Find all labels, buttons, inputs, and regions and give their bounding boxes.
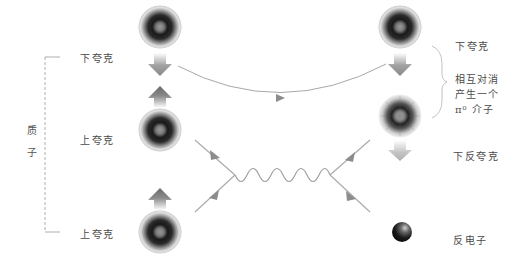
diagram-canvas bbox=[0, 0, 523, 265]
left-label-up-quark-1: 上夸克 bbox=[80, 132, 115, 147]
feynman-incoming-bottom bbox=[195, 175, 235, 212]
spin-down-arrow-icon bbox=[388, 140, 412, 161]
right-label-down-quark: 下夸克 bbox=[455, 38, 490, 53]
proton-label-char: 质 bbox=[26, 120, 38, 142]
proton-bracket bbox=[45, 57, 60, 232]
spin-up-arrow-icon bbox=[148, 86, 172, 108]
left-label-up-quark-2: 上夸克 bbox=[80, 226, 115, 241]
positron bbox=[392, 222, 412, 242]
proton-label-char: 子 bbox=[26, 142, 38, 164]
feynman-incoming-top bbox=[195, 140, 235, 175]
note-line: π⁰ 介子 bbox=[455, 102, 499, 117]
spin-down-arrow-icon bbox=[388, 53, 412, 76]
annihilation-brace bbox=[432, 46, 447, 118]
feynman-outgoing-top bbox=[330, 140, 370, 175]
photon-wave bbox=[235, 169, 330, 182]
annihilation-note: 相互对消 产生一个 π⁰ 介子 bbox=[455, 72, 499, 117]
note-line: 产生一个 bbox=[455, 87, 499, 102]
down-antiquark-right bbox=[378, 94, 422, 138]
up-quark-left-2 bbox=[138, 210, 182, 254]
feynman-outgoing-bottom bbox=[330, 175, 370, 212]
right-label-positron: 反电子 bbox=[453, 232, 488, 247]
down-quark-left bbox=[138, 5, 182, 49]
left-label-down-quark: 下夸克 bbox=[80, 50, 115, 65]
note-line: 相互对消 bbox=[455, 72, 499, 87]
spin-up-arrow-icon bbox=[148, 188, 172, 210]
down-quark-right bbox=[378, 5, 422, 49]
proton-label: 质 子 bbox=[26, 120, 38, 164]
up-quark-left-1 bbox=[138, 108, 182, 152]
spin-down-arrow-icon bbox=[148, 53, 172, 76]
right-label-down-antiquark: 下反夸克 bbox=[453, 148, 499, 163]
down-quark-propagator bbox=[178, 64, 386, 102]
